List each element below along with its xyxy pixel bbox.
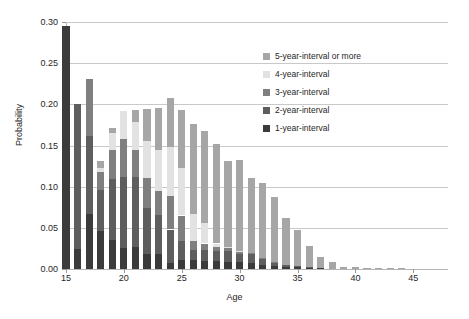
legend-swatch-icon xyxy=(263,107,270,114)
bar-stack xyxy=(109,128,116,269)
bar-segment xyxy=(97,168,104,172)
bar-stack xyxy=(306,246,313,269)
bar-segment xyxy=(201,250,208,261)
bar-segment xyxy=(143,178,150,208)
bar-segment xyxy=(213,144,220,244)
bar-segment xyxy=(248,254,255,263)
bar-segment xyxy=(306,267,313,268)
bar-segment xyxy=(120,111,127,139)
y-tick-label: 0.25 xyxy=(0,59,58,68)
bar-segment xyxy=(224,247,231,248)
y-tick-label: 0.05 xyxy=(0,223,58,232)
bar-stack xyxy=(236,160,243,270)
x-tick-mark xyxy=(240,269,241,273)
bar-segment xyxy=(190,124,197,214)
bar-segment xyxy=(143,254,150,269)
bar-stack xyxy=(248,178,255,269)
bar-segment xyxy=(109,133,116,149)
bar-segment xyxy=(178,168,185,216)
y-tick-label: 0.00 xyxy=(0,265,58,274)
legend-swatch-icon xyxy=(263,71,270,78)
legend-item: 1-year-interval xyxy=(263,119,413,137)
x-tick-mark xyxy=(413,269,414,273)
bar-segment xyxy=(143,109,150,140)
bar-segment xyxy=(259,265,266,269)
bar-segment xyxy=(340,267,347,269)
bar-segment xyxy=(398,268,405,269)
bar-segment xyxy=(294,230,301,266)
x-tick-label: 25 xyxy=(162,274,202,283)
bar-stack xyxy=(282,218,289,269)
bar-segment xyxy=(271,262,278,265)
bar-segment xyxy=(201,223,208,244)
bar-stack xyxy=(375,268,382,269)
bar-segment xyxy=(213,247,220,251)
bar-stack xyxy=(120,111,127,269)
bar-segment xyxy=(271,266,278,269)
legend-swatch-icon xyxy=(263,53,270,60)
bar-stack xyxy=(398,268,405,269)
bar-segment xyxy=(363,268,370,269)
bar-segment xyxy=(236,254,243,262)
x-tick-mark xyxy=(182,269,183,273)
y-tick-label: 0.15 xyxy=(0,141,58,150)
bar-segment xyxy=(317,268,324,269)
bar-segment xyxy=(97,161,104,168)
bar-stack xyxy=(97,161,104,269)
legend-swatch-icon xyxy=(263,125,270,132)
chart-figure: Probability 0.000.050.100.150.200.250.30… xyxy=(0,0,469,319)
bar-stack xyxy=(329,262,336,269)
bar-segment xyxy=(167,98,174,147)
bar-stack xyxy=(143,109,150,269)
legend-label: 4-year-interval xyxy=(275,70,329,79)
bar-segment xyxy=(86,214,93,269)
bar-segment xyxy=(74,249,81,269)
bar-segment xyxy=(178,260,185,269)
bar-segment xyxy=(143,208,150,254)
bar-segment xyxy=(178,216,185,242)
x-tick-label: 20 xyxy=(104,274,144,283)
bar-segment xyxy=(167,196,174,230)
bar-segment xyxy=(236,160,243,251)
bar-segment xyxy=(132,177,139,247)
x-tick-mark xyxy=(124,269,125,273)
bar-stack xyxy=(317,257,324,269)
legend-label: 3-year-interval xyxy=(275,88,329,97)
x-tick-label: 15 xyxy=(46,274,86,283)
bar-segment xyxy=(97,172,104,190)
bar-segment xyxy=(132,122,139,149)
bar-segment xyxy=(329,262,336,269)
gridline xyxy=(66,22,448,23)
bar-stack xyxy=(155,108,162,269)
bar-segment xyxy=(86,79,93,136)
bar-segment xyxy=(132,150,139,177)
bar-segment xyxy=(190,214,197,241)
bar-segment xyxy=(190,250,197,260)
bar-segment xyxy=(224,161,231,247)
bar-segment xyxy=(120,139,127,177)
bar-segment xyxy=(190,241,197,250)
bar-segment xyxy=(387,268,394,269)
bar-segment xyxy=(132,110,139,122)
bar-segment xyxy=(109,179,116,240)
bar-stack xyxy=(132,110,139,269)
bar-segment xyxy=(201,131,208,223)
bar-segment xyxy=(248,253,255,255)
bar-stack xyxy=(259,183,266,269)
bar-segment xyxy=(97,190,104,231)
bar-stack xyxy=(167,98,174,269)
bar-segment xyxy=(178,241,185,260)
legend-label: 2-year-interval xyxy=(275,106,329,115)
bar-segment xyxy=(132,247,139,269)
bar-segment xyxy=(248,178,255,252)
legend-label: 5-year-interval or more xyxy=(275,52,361,61)
bar-segment xyxy=(109,128,116,133)
bar-stack xyxy=(340,267,347,269)
bar-segment xyxy=(143,141,150,179)
bar-stack xyxy=(224,161,231,269)
x-tick-label: 45 xyxy=(393,274,433,283)
bar-segment xyxy=(213,244,220,247)
bar-segment xyxy=(120,177,127,248)
bar-segment xyxy=(167,147,174,196)
x-tick-mark xyxy=(66,269,67,273)
